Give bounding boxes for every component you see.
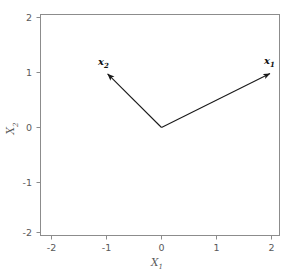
x-tick-label-neg1: -1: [94, 242, 119, 253]
vector-label-x2: x2: [98, 56, 109, 70]
vector-label-x1-sub: 1: [270, 60, 275, 69]
x-axis-title: X1: [151, 256, 163, 271]
x-tick-label-2: 2: [259, 242, 284, 253]
vector-plot-figure: 2 1 0 -1 -2 -2 -1 0 1 2 X1 X2 x1 x2: [0, 0, 297, 274]
x-tick-label-neg2: -2: [39, 242, 64, 253]
vector-label-x2-sub: 2: [104, 61, 109, 70]
x-axis-title-sub: 1: [158, 263, 162, 271]
y-tick-label-neg1: -1: [16, 177, 32, 188]
x-tick-label-0: 0: [149, 242, 174, 253]
plot-frame: [41, 15, 280, 236]
y-axis-ticks: [37, 18, 41, 233]
x-axis-ticks: [52, 236, 272, 240]
y-tick-label-1: 1: [16, 67, 32, 78]
y-axis-title-sub: 2: [12, 123, 20, 127]
vector-label-x1: x1: [264, 55, 275, 69]
x-tick-label-1: 1: [204, 242, 229, 253]
y-tick-label-2: 2: [16, 12, 32, 23]
y-tick-label-neg2: -2: [16, 227, 32, 238]
y-axis-title-base: X: [4, 127, 16, 134]
plot-canvas: [0, 0, 297, 274]
y-axis-title: X2: [4, 117, 19, 141]
